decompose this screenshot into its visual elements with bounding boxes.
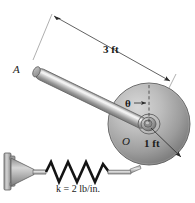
spring xyxy=(46,162,141,182)
wall-support xyxy=(4,153,46,190)
label-spring-constant: k = 2 lb/in. xyxy=(56,184,100,194)
label-radius-1ft: 1 ft xyxy=(144,138,160,149)
mechanics-figure: A 3 ft θ O 1 ft k = 2 lb/in. xyxy=(0,0,195,203)
figure-canvas xyxy=(0,0,195,203)
label-angle-theta: θ xyxy=(125,98,131,109)
label-rod-length: 3 ft xyxy=(103,44,119,55)
label-rod-end-a: A xyxy=(13,64,20,75)
label-center-o: O xyxy=(122,136,130,147)
